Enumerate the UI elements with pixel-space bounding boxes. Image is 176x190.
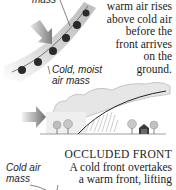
pointer-line-cold-moist [48,66,50,74]
label-line: air mass [52,75,102,86]
pointer-line-mass [60,0,70,26]
occluded-front-section: OCCLUDED FRONT A cold front overtakes a … [42,148,172,186]
airflow-arrow-top [30,20,52,44]
caption-line: above cold air [92,13,172,26]
caption-warm-front: warm air rises above cold air before the… [92,0,172,76]
label-cold-air-mass: Cold air mass [6,162,40,184]
caption-line: before the [92,25,172,38]
label-mass-fragment: mass [32,0,56,5]
label-line: mass [6,173,40,184]
caption-line: on the [92,50,172,63]
section-line: A cold front overtakes [42,161,172,174]
caption-line: ground. [92,63,172,76]
caption-line: warm air rises [92,0,172,13]
label-line: Cold air [6,162,40,173]
section-heading: OCCLUDED FRONT [42,148,172,161]
section-line: a warm front, lifting [42,173,172,186]
caption-line: front arrives [92,38,172,51]
occlusion-scene [22,82,170,134]
